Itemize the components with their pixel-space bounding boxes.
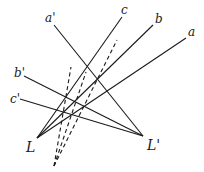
- label-L-prime: L': [147, 138, 160, 152]
- dashed-line-2: [54, 72, 86, 166]
- diagram-canvas: a' c b a b' c' L L': [0, 0, 204, 172]
- label-c: c: [121, 4, 128, 16]
- label-c-prime: c': [10, 93, 20, 105]
- label-b-prime: b': [14, 67, 25, 79]
- line-a: [37, 38, 186, 138]
- label-b: b: [155, 13, 163, 25]
- label-a: a: [188, 26, 195, 38]
- line-c: [37, 17, 122, 138]
- label-L: L: [26, 140, 35, 154]
- line-a-prime: [54, 25, 143, 136]
- label-a-prime: a': [45, 12, 55, 24]
- dashed-line-3: [54, 40, 117, 166]
